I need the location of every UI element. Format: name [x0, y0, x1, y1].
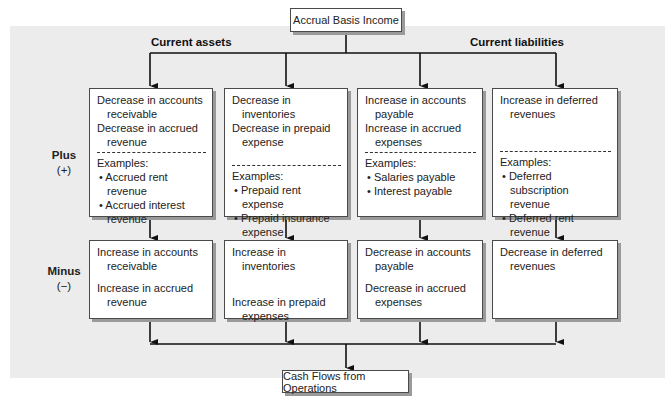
examples-label: Examples:	[500, 155, 611, 169]
target-node-cash-flows-from-operations: Cash Flows from Operations	[282, 370, 409, 393]
example-item: • Accrued rent revenue	[97, 170, 206, 198]
minus-box-deferred-revenues: Decrease in deferred revenues	[492, 240, 618, 319]
plus-item: Decrease in prepaid expense	[232, 121, 341, 149]
minus-item: Decrease in accounts payable	[365, 245, 476, 273]
row-label-minus: Minus (−)	[44, 264, 84, 294]
plus-item: Decrease in accrued revenue	[97, 121, 206, 149]
minus-item: Increase in prepaid expenses	[232, 295, 341, 323]
example-item: • Deferred rent revenue	[500, 211, 611, 239]
source-node-label: Accrual Basis Income	[293, 14, 399, 26]
source-node-accrual-basis-income: Accrual Basis Income	[290, 8, 402, 32]
group-label-current-liabilities: Current liabilities	[470, 36, 564, 48]
row-label-minus-title: Minus	[44, 264, 84, 279]
minus-item: Increase in inventories	[232, 245, 341, 273]
dashed-divider	[365, 152, 476, 153]
plus-box-payables-accrued: Increase in accounts payable Increase in…	[357, 88, 483, 217]
group-label-current-assets: Current assets	[151, 36, 232, 48]
minus-item: Decrease in accrued expenses	[365, 281, 476, 309]
minus-box-accounts-receivable: Increase in accounts receivable Increase…	[89, 240, 213, 319]
examples-label: Examples:	[97, 156, 206, 170]
minus-box-payables-accrued: Decrease in accounts payable Decrease in…	[357, 240, 483, 319]
row-label-plus: Plus (+)	[44, 148, 84, 178]
minus-item: Increase in accounts receivable	[97, 245, 206, 273]
dashed-divider	[232, 165, 341, 166]
example-item: • Deferred subscription revenue	[500, 169, 611, 211]
plus-item: Decrease in inventories	[232, 93, 341, 121]
plus-item: Increase in accrued expenses	[365, 121, 476, 149]
target-node-label: Cash Flows from Operations	[283, 370, 408, 394]
examples-label: Examples:	[365, 156, 476, 170]
example-item: • Interest payable	[365, 184, 476, 198]
minus-item: Increase in accrued revenue	[97, 281, 206, 309]
example-item: • Accrued interest revenue	[97, 198, 206, 226]
row-label-minus-sign: (−)	[44, 279, 84, 294]
minus-item: Decrease in deferred revenues	[500, 245, 611, 273]
example-item: • Prepaid rent expense	[232, 183, 341, 211]
minus-box-inventories-prepaid: Increase in inventories Increase in prep…	[224, 240, 348, 319]
plus-item: Increase in accounts payable	[365, 93, 476, 121]
examples-label: Examples:	[232, 169, 341, 183]
dashed-divider	[97, 152, 206, 153]
plus-item: Increase in deferred revenues	[500, 93, 611, 121]
plus-item: Decrease in accounts receivable	[97, 93, 206, 121]
row-label-plus-title: Plus	[44, 148, 84, 163]
example-item: • Prepaid insurance expense	[232, 211, 341, 239]
dashed-divider	[500, 151, 611, 152]
example-item: • Salaries payable	[365, 170, 476, 184]
plus-box-inventories-prepaid: Decrease in inventories Decrease in prep…	[224, 88, 348, 217]
row-label-plus-sign: (+)	[44, 163, 84, 178]
plus-box-deferred-revenues: Increase in deferred revenues Examples: …	[492, 88, 618, 217]
plus-box-accounts-receivable: Decrease in accounts receivable Decrease…	[89, 88, 213, 217]
